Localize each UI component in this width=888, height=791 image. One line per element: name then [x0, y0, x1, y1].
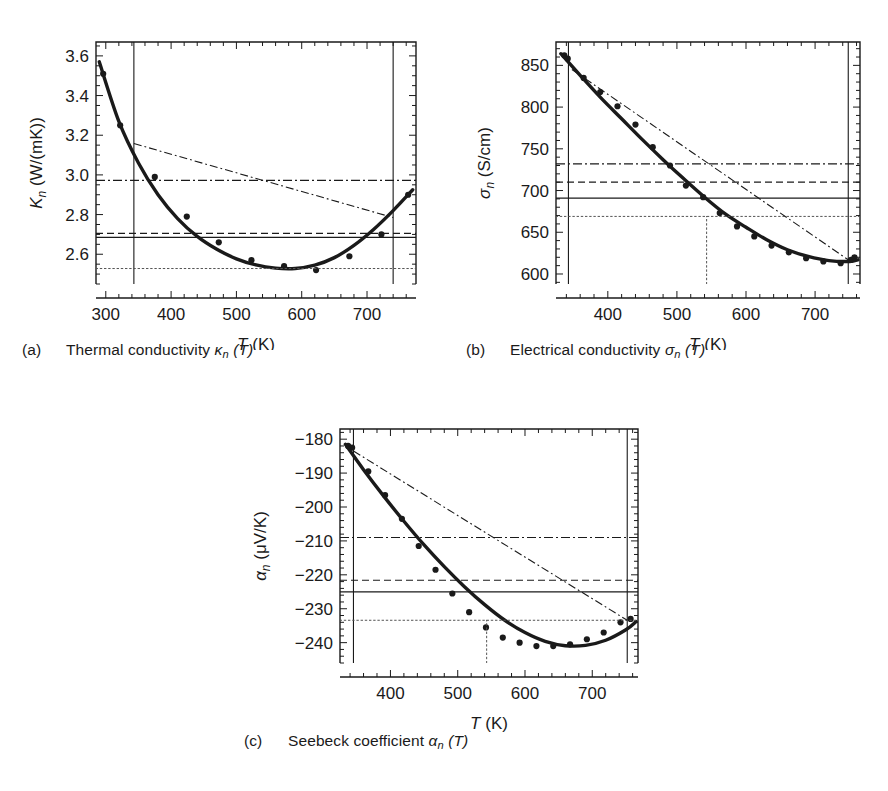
panel-thermal-conductivity: 3004005006007002.62.83.03.23.43.6T (K)Kn… [0, 0, 444, 400]
plot-c-svg: 400500600700−240−230−220−210−200−190−180… [222, 391, 666, 741]
caption-a-suffix: (T) [229, 341, 254, 358]
data-point [500, 634, 506, 640]
y-tick-label: −220 [295, 566, 333, 585]
panel-tag-b: (b) [444, 341, 510, 359]
panel-tag-c: (c) [222, 732, 288, 750]
data-point [313, 267, 319, 273]
x-tick-label: 400 [594, 305, 622, 324]
secant-line [353, 451, 627, 620]
data-point [614, 103, 620, 109]
plot-interior [96, 42, 416, 284]
data-points-group [100, 71, 411, 274]
tick-labels: 400500600700600650700750800850 [521, 56, 830, 324]
chart-root: 400500600700600650700750800850T (K)σn (S… [475, 42, 860, 350]
fitted-curve [561, 54, 858, 262]
data-point [533, 643, 539, 649]
plot-a-svg: 3004005006007002.62.83.03.23.43.6T (K)Kn… [0, 0, 444, 350]
panel-electrical-conductivity: 400500600700600650700750800850T (K)σn (S… [444, 0, 888, 400]
y-axis-title-symbol: K [27, 197, 46, 209]
panel-tag-a: (a) [0, 341, 66, 359]
y-tick-label: 2.8 [65, 206, 89, 225]
caption-b: (b) Electrical conductivity σn (T) [444, 341, 888, 360]
x-tick-label: 600 [511, 684, 539, 703]
y-axis-title: Kn (W/(mK)) [27, 117, 49, 209]
x-tick-label: 500 [222, 305, 250, 324]
y-tick-label: −190 [295, 464, 333, 483]
x-tick-label: 300 [92, 305, 120, 324]
fitted-curve [345, 444, 636, 646]
x-tick-label: 600 [288, 305, 316, 324]
x-tick-label: 700 [801, 305, 829, 324]
y-tick-label: 2.6 [65, 245, 89, 264]
data-point [628, 616, 634, 622]
y-tick-label: −200 [295, 498, 333, 517]
chart-root: 3004005006007002.62.83.03.23.43.6T (K)Kn… [27, 42, 416, 350]
y-tick-label: 700 [521, 182, 549, 201]
data-points-group [345, 443, 634, 649]
caption-c: (c) Seebeck coefficient αn (T) [222, 732, 666, 751]
tick-labels: 400500600700−240−230−220−210−200−190−180 [295, 430, 607, 703]
y-tick-label: 3.2 [65, 126, 89, 145]
data-point [432, 567, 438, 573]
caption-b-symbol: σ [665, 341, 674, 358]
y-tick-label: −180 [295, 430, 333, 449]
y-tick-label: 650 [521, 223, 549, 242]
data-point [601, 629, 607, 635]
y-axis-title-units: (S/cm) [475, 127, 494, 182]
x-tick-label: 400 [157, 305, 185, 324]
y-axis-title-units: (W/(mK)) [27, 117, 46, 191]
caption-c-suffix: (T) [444, 732, 469, 749]
panel-seebeck-coefficient: 400500600700−240−230−220−210−200−190−180… [222, 391, 666, 791]
data-point [152, 174, 158, 180]
x-tick-label: 700 [353, 305, 381, 324]
frame-path [96, 42, 416, 284]
x-tick-label: 400 [376, 684, 404, 703]
y-tick-label: −240 [295, 634, 333, 653]
data-point [346, 253, 352, 259]
y-axis-title: σn (S/cm) [475, 127, 497, 199]
caption-text-c: Seebeck coefficient αn (T) [288, 732, 666, 751]
data-point [632, 122, 638, 128]
caption-c-prefix: Seebeck coefficient [288, 732, 428, 749]
caption-text-b: Electrical conductivity σn (T) [510, 341, 888, 360]
y-tick-label: 3.6 [65, 47, 89, 66]
plot-interior [556, 42, 860, 284]
data-point [517, 640, 523, 646]
caption-b-prefix: Electrical conductivity [510, 341, 665, 358]
x-tick-label: 500 [663, 305, 691, 324]
y-tick-label: −230 [295, 600, 333, 619]
x-tick-label: 500 [444, 684, 472, 703]
caption-a-prefix: Thermal conductivity [66, 341, 215, 358]
data-points-group [561, 52, 857, 266]
plot-b-svg: 400500600700600650700750800850T (K)σn (S… [444, 0, 888, 350]
plot-interior [340, 429, 638, 663]
y-tick-label: 3.0 [65, 166, 89, 185]
x-tick-label: 700 [578, 684, 606, 703]
data-point [184, 213, 190, 219]
y-axis-title-units: (μV/K) [251, 511, 270, 564]
y-tick-label: 850 [521, 56, 549, 75]
chart-root: 400500600700−240−230−220−210−200−190−180… [251, 429, 638, 733]
y-tick-label: −210 [295, 532, 333, 551]
y-tick-label: 800 [521, 98, 549, 117]
caption-text-a: Thermal conductivity κn (T) [66, 341, 444, 360]
data-point [466, 609, 472, 615]
y-tick-label: 600 [521, 265, 549, 284]
caption-b-suffix: (T) [681, 341, 706, 358]
data-point [483, 624, 489, 630]
x-axis-title-unit: (K) [481, 714, 508, 733]
tick-marks [340, 429, 638, 677]
y-tick-label: 750 [521, 140, 549, 159]
data-point [216, 239, 222, 245]
tick-labels: 3004005006007002.62.83.03.23.43.6 [65, 47, 381, 324]
plot-frame [96, 42, 416, 284]
x-tick-label: 600 [732, 305, 760, 324]
y-axis-title: αn (μV/K) [251, 511, 273, 581]
y-tick-label: 3.4 [65, 87, 89, 106]
thermoelectric-properties-figure: 3004005006007002.62.83.03.23.43.6T (K)Kn… [0, 0, 888, 791]
caption-a: (a) Thermal conductivity κn (T) [0, 341, 444, 360]
x-axis-title: T (K) [470, 714, 508, 733]
data-point [584, 636, 590, 642]
secant-line [572, 70, 848, 260]
data-point [378, 231, 384, 237]
